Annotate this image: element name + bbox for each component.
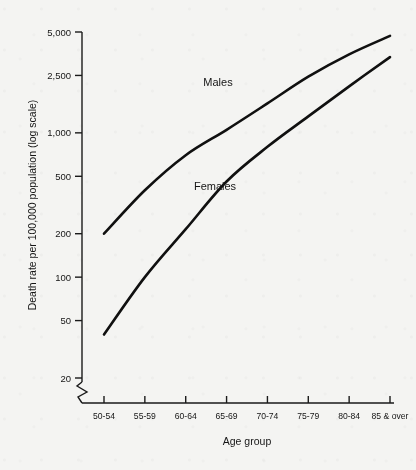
y-axis-break-zigzag	[77, 382, 87, 403]
y-tick-label-200: 200	[55, 228, 71, 239]
x-tick-label-3: 65-69	[216, 411, 238, 421]
y-axis-title: Death rate per 100,000 population (log s…	[26, 100, 38, 311]
x-tick-label-6: 80-84	[338, 411, 360, 421]
series-line-males	[104, 36, 390, 234]
x-tick-label-1: 55-59	[134, 411, 156, 421]
females-label: Females	[194, 180, 237, 192]
death-rate-line-chart: 5,0002,5001,000500200100502050-5455-5960…	[0, 0, 416, 470]
y-tick-label-20: 20	[60, 373, 71, 384]
y-tick-label-500: 500	[55, 171, 71, 182]
x-tick-label-7: 85 & over	[372, 411, 409, 421]
chart-figure: 5,0002,5001,000500200100502050-5455-5960…	[0, 0, 416, 470]
x-axis-title: Age group	[223, 435, 272, 447]
y-tick-label-5000: 5,000	[47, 27, 71, 38]
series-line-females	[104, 57, 390, 334]
y-tick-label-1000: 1,000	[47, 127, 71, 138]
males-label: Males	[203, 76, 233, 88]
x-tick-label-4: 70-74	[256, 411, 278, 421]
x-tick-label-0: 50-54	[93, 411, 115, 421]
x-tick-label-2: 60-64	[175, 411, 197, 421]
x-tick-label-5: 75-79	[297, 411, 319, 421]
y-tick-label-50: 50	[60, 315, 71, 326]
y-tick-label-100: 100	[55, 272, 71, 283]
y-tick-label-2500: 2,500	[47, 70, 71, 81]
